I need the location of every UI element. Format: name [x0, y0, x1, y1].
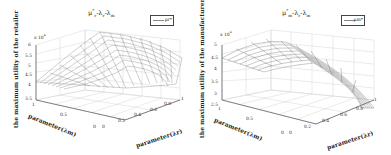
z-tick: 4.5	[25, 72, 32, 77]
z-tick: 6	[28, 42, 31, 47]
manufacturer-z-axis-label: the maximum utility of the manufacturer	[198, 0, 205, 138]
title-sub3: m	[307, 13, 311, 18]
y-tick: 0.5	[246, 116, 253, 121]
x-tick: 0.4	[322, 118, 329, 123]
x-tick: 0	[289, 130, 292, 135]
z-tick: 5	[28, 63, 31, 68]
x-tick: 0.2	[118, 118, 125, 123]
x-tick: 0.6	[150, 107, 157, 112]
z-tick: 4.5	[211, 55, 218, 60]
x-tick: 0.8	[356, 106, 363, 111]
retailer-z-multiplier: x 104	[34, 33, 46, 40]
z-tick: 5.5	[25, 53, 32, 58]
x-tick: 0.8	[164, 101, 171, 106]
y-tick: 0	[93, 124, 96, 129]
y-tick: 1	[218, 106, 221, 111]
manufacturer-plot-title: μ*m-λr-λm	[282, 8, 310, 18]
legend-label: μr*	[165, 17, 172, 22]
x-tick: 1	[181, 96, 184, 101]
x-tick: 0.2	[304, 124, 311, 129]
retailer-utility-plot: the maximum utility of the retailer μ*r-…	[0, 0, 195, 155]
manufacturer-legend: μm*	[341, 15, 365, 26]
z-tick: 3.5	[211, 79, 218, 84]
y-tick: 0	[281, 130, 284, 135]
manufacturer-z-multiplier: x 104	[220, 30, 232, 37]
x-tick: 0.4	[134, 112, 141, 117]
z-tick: 3	[214, 91, 217, 96]
legend-swatch	[153, 20, 164, 21]
exp-base: x 10	[220, 32, 230, 37]
title-sub3: m	[111, 13, 115, 18]
exp-power: 4	[44, 33, 46, 37]
x-tick: 1	[374, 97, 377, 102]
z-tick: 5	[214, 42, 217, 47]
y-tick: 0.5	[60, 112, 67, 117]
x-tick: 0.6	[340, 112, 347, 117]
retailer-legend: μr*	[150, 15, 174, 26]
z-tick: 3.5	[25, 96, 32, 101]
manufacturer-utility-plot: the maximum utility of the manufacturer …	[196, 0, 391, 155]
z-tick: 4	[28, 82, 31, 87]
exp-base: x 10	[34, 35, 44, 40]
retailer-plot-title: μ*r-λr-λm	[88, 8, 115, 18]
y-tick: 1	[32, 102, 35, 107]
z-tick: 4	[214, 66, 217, 71]
x-tick: 0	[102, 124, 105, 129]
retailer-z-axis-label: the maximum utility of the retailer	[12, 11, 19, 129]
legend-label: μm*	[354, 17, 363, 22]
exp-power: 4	[230, 30, 232, 34]
